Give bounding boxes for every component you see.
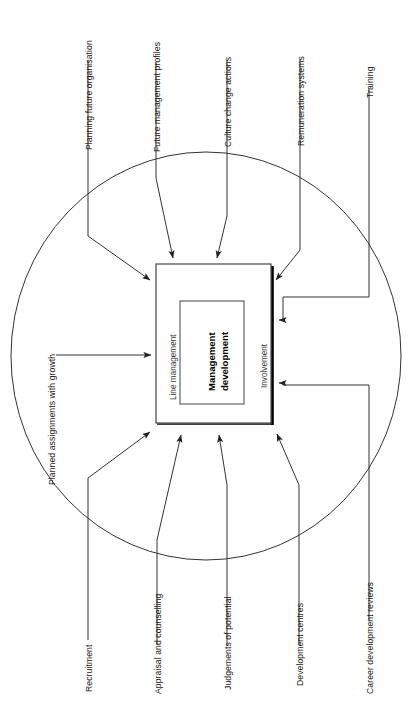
inner-label-line2: development	[219, 332, 230, 391]
connector-planning-future-organisation	[88, 60, 150, 280]
connector-career-development-reviews	[279, 383, 369, 620]
label-appraisal-and-counselling: Appraisal and counselling	[154, 594, 163, 694]
label-line-management: Line management	[170, 334, 178, 400]
label-judgements-of-potential: Judgements of potential	[224, 596, 233, 690]
label-planning-future-organisation: Planning future organisation	[85, 40, 94, 150]
label-involvement: Involvement	[261, 344, 269, 388]
label-development-centres: Development centres	[296, 603, 305, 686]
label-remuneration-systems: Remuneration systems	[297, 56, 306, 146]
label-future-management-profiles: Future management profiles	[153, 42, 162, 152]
label-culture-change-actions: Culture change actions	[224, 57, 233, 147]
label-planned-assignments-with-growth: Planned assignments with growth	[48, 354, 57, 485]
diagram-canvas: Planning future organisation Future mana…	[0, 0, 415, 701]
inner-label-line1: Management	[206, 332, 217, 391]
label-career-development-reviews: Career development reviews	[366, 582, 375, 694]
label-training: Training	[366, 66, 375, 98]
label-recruitment: Recruitment	[85, 645, 94, 692]
connector-recruitment	[88, 432, 150, 640]
connector-training	[279, 88, 369, 320]
